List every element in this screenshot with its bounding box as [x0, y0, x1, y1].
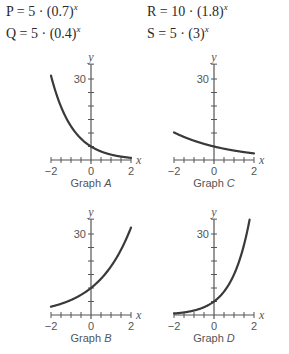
- graph-b-y-tick-label: 30: [74, 228, 86, 240]
- graph-c-x-tick-label: 2: [251, 165, 257, 177]
- graph-c-y-axis-label: y: [210, 50, 217, 64]
- graph-c-x-tick-label: 0: [211, 165, 217, 177]
- graphs-canvas: 30yx−202Graph A30yx−202Graph C30yx−202Gr…: [0, 0, 289, 354]
- graph-b-x-tick-label: 0: [88, 320, 94, 332]
- graph-d-y-axis-label: y: [210, 205, 217, 219]
- graph-a-x-axis-label: x: [135, 153, 142, 167]
- graph-d-x-tick-label: −2: [168, 320, 181, 332]
- graph-d-x-axis-label: x: [258, 308, 265, 322]
- graph-c-x-tick-label: −2: [168, 165, 181, 177]
- graph-d-x-tick-label: 0: [211, 320, 217, 332]
- graph-d-caption: Graph D: [193, 332, 235, 344]
- graph-b-x-axis-label: x: [135, 308, 142, 322]
- graph-d-x-tick-label: 2: [251, 320, 257, 332]
- graph-d-y-tick-label: 30: [197, 228, 209, 240]
- graph-a-x-tick-label: 0: [88, 165, 94, 177]
- graph-a-x-tick-label: −2: [45, 165, 58, 177]
- graph-a-caption: Graph A: [71, 177, 112, 189]
- graph-b-y-axis-label: y: [87, 205, 94, 219]
- graph-c-caption: Graph C: [193, 177, 235, 189]
- graph-b-x-tick-label: −2: [45, 320, 58, 332]
- graph-b-x-tick-label: 2: [128, 320, 134, 332]
- graph-c-y-tick-label: 30: [197, 73, 209, 85]
- graph-c-x-axis-label: x: [258, 153, 265, 167]
- graph-a-y-tick-label: 30: [74, 73, 86, 85]
- graph-b-caption: Graph B: [71, 332, 112, 344]
- graph-a-x-tick-label: 2: [128, 165, 134, 177]
- graph-a-y-axis-label: y: [87, 50, 94, 64]
